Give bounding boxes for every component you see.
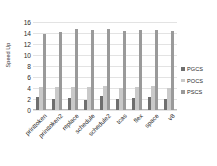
bar-pscs xyxy=(75,29,78,110)
bar-group xyxy=(145,22,161,110)
bar-pscs xyxy=(43,34,46,110)
y-tick-label: 6 xyxy=(27,74,31,81)
y-tick-label: 12 xyxy=(24,41,31,48)
gridline xyxy=(33,110,177,111)
bar-groups xyxy=(33,22,177,110)
x-tick-label: tcas xyxy=(115,112,128,125)
bar-group xyxy=(65,22,81,110)
legend-swatch-icon xyxy=(181,90,185,94)
bar-group xyxy=(129,22,145,110)
x-tick-label: flex xyxy=(132,112,144,124)
y-tick-label: 16 xyxy=(24,19,31,26)
y-axis-tick-labels: 0246810121416 xyxy=(14,18,31,110)
x-tick-label: space xyxy=(143,112,160,129)
x-axis-tick-labels: printtokenprinttoken2replaceschedulesche… xyxy=(33,112,177,166)
bar-pscs xyxy=(107,29,110,110)
chart-legend: PGCSPOCSPSCS xyxy=(181,66,203,95)
legend-item[interactable]: PSCS xyxy=(181,89,203,95)
legend-label: POCS xyxy=(187,78,203,84)
bar-group xyxy=(81,22,97,110)
legend-label: PSCS xyxy=(187,89,202,95)
y-tick-label: 2 xyxy=(27,96,31,103)
y-axis-title: Speed Up xyxy=(5,31,11,79)
bar-pscs xyxy=(171,31,174,110)
bar-pscs xyxy=(139,30,142,110)
x-tick-label: v8 xyxy=(166,112,176,122)
bar-group xyxy=(97,22,113,110)
y-tick-label: 4 xyxy=(27,85,31,92)
y-tick-label: 10 xyxy=(24,52,31,59)
bar-group xyxy=(49,22,65,110)
legend-swatch-icon xyxy=(181,79,185,83)
y-tick-label: 8 xyxy=(27,63,31,70)
bar-group xyxy=(33,22,49,110)
legend-item[interactable]: PGCS xyxy=(181,66,203,72)
bar-group xyxy=(161,22,177,110)
bar-group xyxy=(113,22,129,110)
bar-pscs xyxy=(91,30,94,110)
legend-item[interactable]: POCS xyxy=(181,78,203,84)
y-tick-label: 14 xyxy=(24,30,31,37)
legend-swatch-icon xyxy=(181,67,185,71)
bar-pscs xyxy=(155,30,158,110)
bar-chart: Speed Up 0246810121416 printtokenprintto… xyxy=(0,0,217,166)
bar-pscs xyxy=(123,31,126,110)
y-tick-label: 0 xyxy=(27,107,31,114)
bar-pscs xyxy=(59,32,62,110)
plot-area xyxy=(33,22,177,110)
legend-label: PGCS xyxy=(187,66,203,72)
